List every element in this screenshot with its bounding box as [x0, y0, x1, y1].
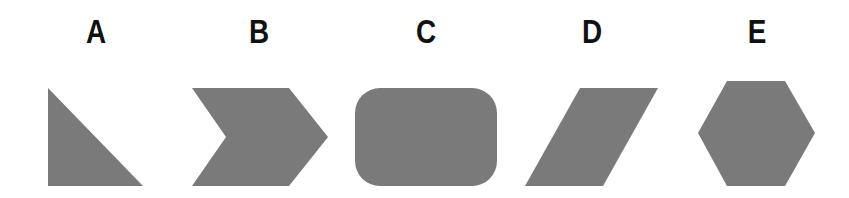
parallelogram-shape — [525, 88, 658, 186]
chevron-arrow-shape — [192, 88, 328, 186]
right-triangle-shape — [48, 88, 143, 186]
shapes-canvas — [0, 0, 849, 198]
hexagon-shape — [698, 81, 815, 186]
rounded-rectangle-shape — [355, 88, 497, 186]
